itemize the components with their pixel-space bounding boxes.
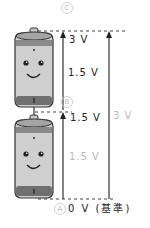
- point-c-marker: C: [61, 2, 73, 14]
- point-b-marker: B: [61, 96, 73, 108]
- total-span-label: 3 V: [113, 111, 132, 121]
- battery-bottom: [15, 115, 53, 198]
- eye-right: [38, 60, 43, 65]
- middle-voltage-label: 1.5 V: [70, 113, 101, 123]
- bottom-reference-label: 0 V (基準): [68, 204, 131, 214]
- top-voltage-label: 3 V: [69, 35, 88, 45]
- upper-segment-label: 1.5 V: [68, 68, 99, 78]
- point-a-marker: A: [54, 203, 66, 215]
- eye-left: [23, 60, 28, 65]
- battery-top: [15, 28, 53, 107]
- lower-segment-label: 1.5 V: [69, 152, 100, 162]
